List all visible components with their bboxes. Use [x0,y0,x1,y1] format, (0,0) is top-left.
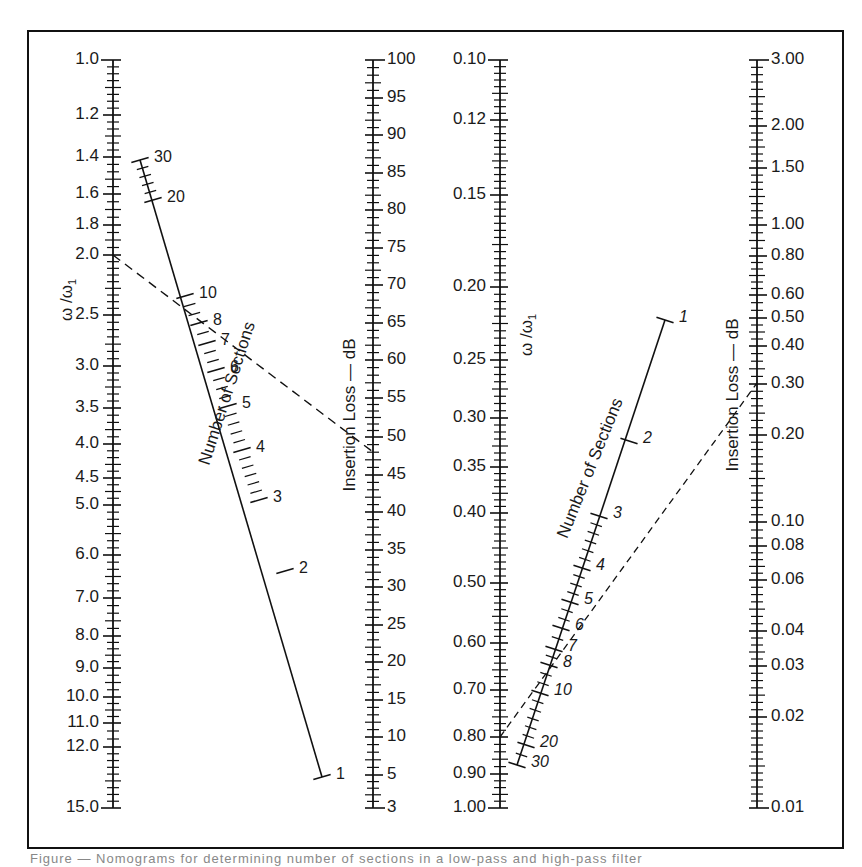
svg-text:85: 85 [387,162,406,181]
svg-text:2: 2 [299,559,308,576]
svg-text:0.08: 0.08 [771,535,804,554]
svg-text:10: 10 [199,284,217,301]
svg-text:10: 10 [387,726,406,745]
svg-text:0.25: 0.25 [453,349,486,368]
svg-text:15.0: 15.0 [66,797,99,816]
svg-text:65: 65 [387,312,406,331]
svg-text:0.80: 0.80 [771,245,804,264]
svg-text:6: 6 [575,616,584,633]
svg-text:10: 10 [554,681,572,698]
svg-text:8: 8 [213,311,222,328]
svg-text:2.00: 2.00 [771,115,804,134]
left-insertion-title: Insertion Loss — dB [340,338,359,491]
svg-text:0.20: 0.20 [771,424,804,443]
svg-text:7: 7 [568,637,578,654]
example-dashed-lines [113,255,757,737]
svg-text:7.0: 7.0 [75,587,99,606]
svg-text:25: 25 [387,614,406,633]
svg-text:1.2: 1.2 [75,104,99,123]
svg-text:6.0: 6.0 [75,544,99,563]
svg-text:2.0: 2.0 [75,244,99,263]
figure-border [28,31,843,848]
svg-text:70: 70 [387,274,406,293]
svg-text:4.0: 4.0 [75,433,99,452]
svg-text:2.5: 2.5 [75,304,99,323]
svg-text:55: 55 [387,387,406,406]
svg-text:3.0: 3.0 [75,355,99,374]
svg-text:80: 80 [387,199,406,218]
svg-text:3: 3 [613,504,622,521]
svg-text:0.40: 0.40 [453,502,486,521]
svg-text:0.80: 0.80 [453,726,486,745]
svg-text:5: 5 [387,764,396,783]
svg-text:1: 1 [679,308,688,325]
nomogram-figure: 1.01.21.41.61.82.02.53.03.54.04.55.06.07… [0,0,862,867]
svg-text:40: 40 [387,501,406,520]
svg-text:0.60: 0.60 [771,284,804,303]
svg-text:60: 60 [387,349,406,368]
svg-text:0.10: 0.10 [771,511,804,530]
figure-caption: Figure — Nomograms for determining numbe… [30,851,643,866]
svg-text:0.04: 0.04 [771,620,804,639]
svg-text:3: 3 [387,797,396,816]
svg-text:95: 95 [387,87,406,106]
left-freq-axis-title: ω /ω1 [57,279,78,321]
svg-text:20: 20 [539,733,558,750]
svg-text:8: 8 [563,653,572,670]
right-insertion-title: Insertion Loss — dB [723,318,742,471]
svg-text:0.06: 0.06 [771,569,804,588]
svg-text:30: 30 [387,576,406,595]
svg-text:1.00: 1.00 [453,797,486,816]
svg-text:0.01: 0.01 [771,797,804,816]
svg-text:0.20: 0.20 [453,276,486,295]
svg-text:0.50: 0.50 [771,307,804,326]
svg-text:0.03: 0.03 [771,655,804,674]
svg-text:0.50: 0.50 [453,572,486,591]
svg-text:5: 5 [584,590,593,607]
svg-text:0.40: 0.40 [771,335,804,354]
svg-text:3.00: 3.00 [771,49,804,68]
svg-text:75: 75 [387,237,406,256]
svg-text:1.00: 1.00 [771,214,804,233]
svg-text:5: 5 [242,394,251,411]
svg-text:0.30: 0.30 [771,373,804,392]
scale-labels: 1.01.21.41.61.82.02.53.03.54.04.55.06.07… [66,49,804,816]
svg-text:15: 15 [387,689,406,708]
svg-text:1.50: 1.50 [771,157,804,176]
svg-text:90: 90 [387,124,406,143]
svg-text:10.0: 10.0 [66,686,99,705]
svg-text:3: 3 [273,488,282,505]
scale-ticks [101,60,769,808]
svg-text:12.0: 12.0 [66,736,99,755]
svg-text:8.0: 8.0 [75,625,99,644]
svg-text:3.5: 3.5 [75,397,99,416]
svg-text:20: 20 [167,188,185,205]
svg-text:45: 45 [387,464,406,483]
svg-text:30: 30 [154,148,172,165]
svg-text:0.60: 0.60 [453,632,486,651]
svg-text:4: 4 [256,438,265,455]
svg-text:4: 4 [596,556,605,573]
svg-text:35: 35 [387,539,406,558]
svg-text:0.15: 0.15 [453,184,486,203]
svg-text:0.35: 0.35 [453,456,486,475]
svg-text:1.8: 1.8 [75,214,99,233]
svg-text:5.0: 5.0 [75,494,99,513]
svg-text:2: 2 [642,429,652,446]
svg-text:50: 50 [387,426,406,445]
svg-text:1: 1 [336,765,345,782]
svg-text:0.70: 0.70 [453,679,486,698]
svg-text:0.30: 0.30 [453,407,486,426]
svg-text:1.0: 1.0 [75,49,99,68]
svg-text:11.0: 11.0 [67,712,99,731]
svg-text:0.90: 0.90 [453,763,486,782]
svg-text:20: 20 [387,651,406,670]
svg-text:4.5: 4.5 [75,467,99,486]
svg-text:1.4: 1.4 [75,146,99,165]
svg-text:30: 30 [531,753,549,770]
svg-text:0.10: 0.10 [453,49,486,68]
svg-text:0.02: 0.02 [771,706,804,725]
right-freq-axis-title: ω /ω1 [517,314,538,356]
svg-text:0.12: 0.12 [453,109,486,128]
svg-text:1.6: 1.6 [75,183,99,202]
